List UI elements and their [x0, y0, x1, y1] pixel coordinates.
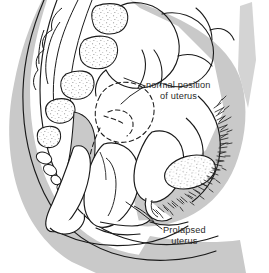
uterine-prolapse-diagram: normal position of uterus Prolapsed uter…	[0, 0, 269, 273]
label-prolapsed-uterus: Prolapsed uterus	[163, 225, 206, 247]
label-prolapsed-line1: Prolapsed	[163, 225, 206, 235]
label-normal-line1: normal position	[146, 80, 211, 90]
label-normal-line2: of uterus	[146, 91, 211, 102]
label-normal-position: normal position of uterus	[146, 80, 211, 102]
anatomy-illustration	[0, 0, 269, 273]
label-prolapsed-line2: uterus	[163, 236, 206, 247]
